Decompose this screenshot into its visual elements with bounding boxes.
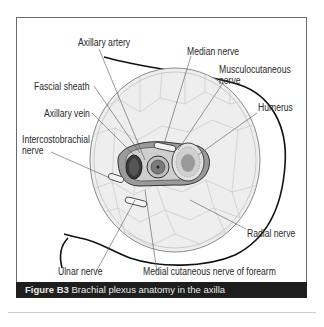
divider bbox=[8, 312, 316, 313]
figure-title: Brachial plexus anatomy in the axilla bbox=[71, 284, 225, 295]
label-radial-nerve: Radial nerve bbox=[247, 228, 295, 239]
label-fascial-sheath: Fascial sheath bbox=[34, 81, 89, 92]
label-ulnar-nerve: Ulnar nerve bbox=[58, 266, 102, 277]
torso-outline bbox=[60, 238, 68, 268]
label-medial-cutaneous-nerve: Medial cutaneous nerve of forearm bbox=[143, 266, 276, 277]
label-intercostobrachial-line2: nerve bbox=[22, 145, 44, 156]
figure-number: Figure B3 bbox=[25, 284, 69, 295]
label-axillary-artery: Axillary artery bbox=[78, 37, 130, 48]
figure-caption: Figure B3 Brachial plexus anatomy in the… bbox=[16, 282, 307, 298]
label-musculocutaneous-line1: Musculocutaneous bbox=[219, 64, 291, 75]
axilla-cross-section-diagram bbox=[0, 0, 324, 327]
label-musculocutaneous-line2: nerve bbox=[219, 75, 241, 86]
label-median-nerve: Median nerve bbox=[187, 46, 239, 57]
label-intercostobrachial-line1: Intercostobrachial bbox=[22, 134, 90, 145]
label-humerus: Humerus bbox=[258, 102, 293, 113]
label-axillary-vein: Axillary vein bbox=[44, 108, 90, 119]
